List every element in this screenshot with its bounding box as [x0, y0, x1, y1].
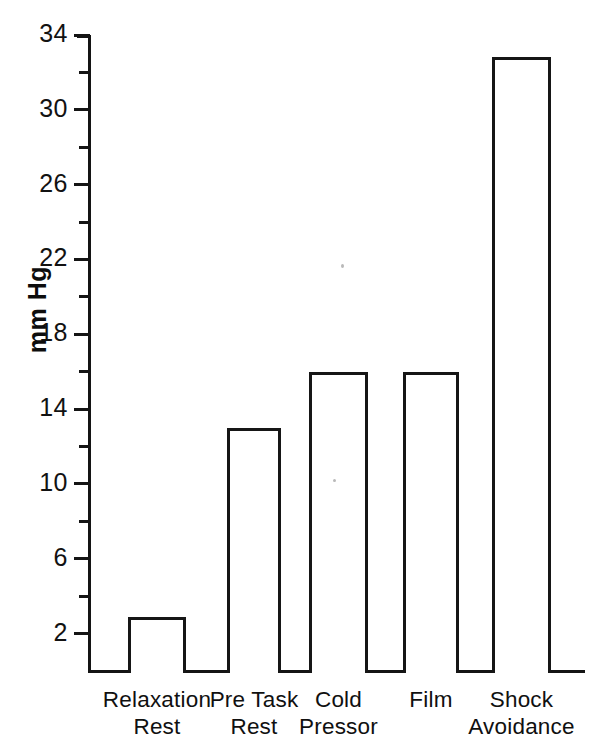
bar [227, 428, 281, 673]
y-tick-major [74, 183, 90, 186]
y-tick-major [74, 632, 90, 635]
y-tick-minor [79, 146, 90, 149]
bar-chart-figure: mm Hg 2610141822263034 RelaxationRestPre… [0, 0, 605, 748]
bar [309, 372, 368, 673]
y-tick-minor [79, 71, 90, 74]
bar [492, 57, 551, 673]
y-tick-label: 6 [0, 545, 68, 570]
scan-speckle [341, 264, 344, 268]
y-tick-major [74, 108, 90, 111]
y-tick-major [74, 258, 90, 261]
y-tick-major [74, 557, 90, 560]
scan-speckle [333, 479, 336, 482]
y-tick-major [74, 34, 90, 37]
y-tick-minor [79, 445, 90, 448]
y-tick-minor [79, 370, 90, 373]
y-tick-major [74, 408, 90, 411]
y-tick-label: 30 [0, 96, 68, 121]
y-tick-label: 34 [0, 21, 68, 46]
x-category-label-line1: Shock [490, 687, 554, 712]
y-tick-major [74, 482, 90, 485]
y-tick-label: 10 [0, 470, 68, 495]
y-tick-label: 26 [0, 171, 68, 196]
x-category-label-line2: Avoidance [412, 713, 605, 740]
y-tick-label: 18 [0, 320, 68, 345]
y-tick-label: 2 [0, 620, 68, 645]
y-tick-minor [79, 520, 90, 523]
y-tick-label: 14 [0, 395, 68, 420]
y-tick-minor [79, 295, 90, 298]
y-tick-label: 22 [0, 245, 68, 270]
bar [403, 372, 459, 673]
y-tick-major [74, 333, 90, 336]
bar [128, 617, 186, 673]
plot-area: mm Hg 2610141822263034 RelaxationRestPre… [0, 0, 605, 748]
y-tick-minor [79, 221, 90, 224]
y-axis-line [88, 35, 91, 673]
x-category-label: ShockAvoidance [412, 686, 605, 741]
y-tick-minor [79, 595, 90, 598]
